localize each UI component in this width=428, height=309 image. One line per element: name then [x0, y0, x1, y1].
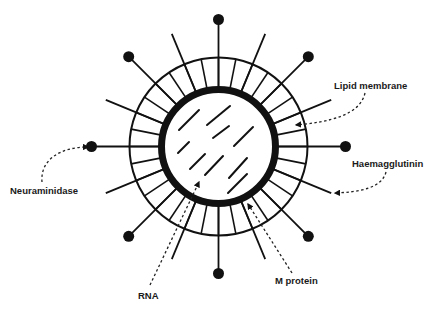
membrane-segment-line: [156, 84, 179, 107]
membrane-segment-line: [184, 199, 196, 229]
membrane-segment-line: [274, 158, 305, 164]
membrane-segment-line: [201, 59, 207, 90]
spike-knob: [123, 51, 134, 62]
rna-pointer: [150, 182, 199, 285]
virus-diagram: Lipid membrane Haemagglutinin Neuraminid…: [0, 0, 428, 309]
membrane-segment-line: [250, 72, 268, 99]
membrane-segment-line: [230, 202, 236, 233]
haemagglutinin-pointer: [335, 172, 386, 193]
membrane-segment-line: [184, 64, 196, 94]
membrane-segment-line: [259, 187, 282, 210]
membrane-segment-line: [266, 178, 293, 196]
membrane-segment-line: [230, 59, 236, 90]
virus-diagram-canvas: [0, 0, 428, 309]
membrane-segment-line: [169, 72, 187, 99]
membrane-segment-line: [250, 194, 268, 221]
lipid-membrane-pointer: [296, 93, 365, 125]
membrane-segment-line: [271, 112, 301, 124]
membrane-segment-line: [259, 84, 282, 107]
membrane-segment-line: [201, 202, 207, 233]
membrane-segment-line: [240, 199, 252, 229]
membrane-segment-line: [156, 187, 179, 210]
membrane-segment-line: [136, 112, 166, 124]
label-neuraminidase: Neuraminidase: [10, 186, 78, 196]
membrane-segment-line: [169, 194, 187, 221]
label-haemagglutinin: Haemagglutinin: [352, 159, 423, 169]
membrane-segment-line: [131, 129, 162, 135]
membrane-segment-line: [144, 97, 171, 115]
membrane-segment-line: [136, 168, 166, 180]
label-m-protein: M protein: [275, 276, 318, 286]
label-lipid-membrane: Lipid membrane: [334, 81, 407, 91]
spike-knob: [340, 141, 351, 152]
m-protein-layer-ring: [162, 90, 276, 204]
membrane-segment-line: [266, 97, 293, 115]
spike-knob: [303, 51, 314, 62]
spike-knob: [213, 268, 224, 279]
membrane-segment-line: [240, 64, 252, 94]
neuraminidase-pointer: [42, 147, 88, 182]
spike-knob: [123, 231, 134, 242]
label-rna: RNA: [138, 291, 159, 301]
membrane-segment-line: [271, 168, 301, 180]
membrane-segment-line: [144, 178, 171, 196]
spike-knob: [303, 231, 314, 242]
spike-knob: [213, 14, 224, 25]
membrane-segment-line: [274, 129, 305, 135]
membrane-segment-line: [131, 158, 162, 164]
